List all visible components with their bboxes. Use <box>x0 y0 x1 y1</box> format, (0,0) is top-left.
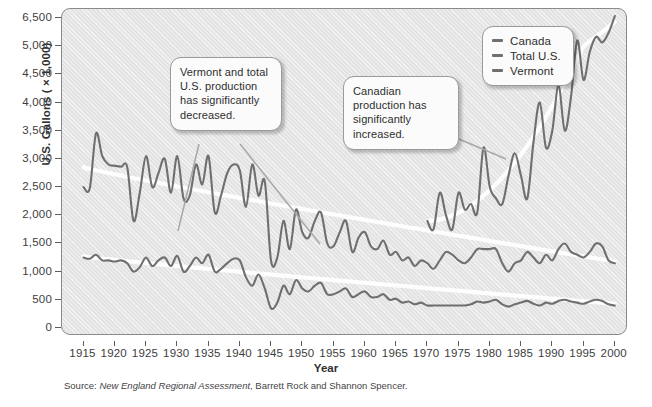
chart-legend[interactable]: Canada Total U.S. Vermont <box>482 26 574 86</box>
y-tick-label: 0 <box>45 321 52 333</box>
x-tick-mark <box>614 341 615 346</box>
x-tick-mark <box>208 341 209 346</box>
y-tick-label: 1,500 <box>22 236 52 248</box>
x-tick-label: 2000 <box>601 347 627 359</box>
x-tick-label: 1915 <box>69 347 95 359</box>
x-tick-mark <box>583 341 584 346</box>
source-caption: Source: New England Regional Assessment,… <box>64 380 407 391</box>
callout-decrease: Vermont and total U.S. production has si… <box>170 57 282 131</box>
x-tick-label: 1980 <box>476 347 502 359</box>
x-tick-label: 1955 <box>319 347 345 359</box>
y-tick-label: 1,000 <box>22 265 52 277</box>
y-tick-label: 2,500 <box>22 180 52 192</box>
x-tick-mark <box>333 341 334 346</box>
callout-increase: Canadian production has significantly in… <box>343 76 459 150</box>
legend-label-total-us: Total U.S. <box>510 50 561 62</box>
y-tick-label: 3,500 <box>22 124 52 136</box>
x-tick-label: 1960 <box>351 347 377 359</box>
x-tick-mark <box>364 341 365 346</box>
trend-line-total-u-s <box>84 167 615 261</box>
y-tick-label: 6,500 <box>22 11 52 23</box>
x-tick-label: 1945 <box>257 347 283 359</box>
source-prefix: Source: <box>64 380 99 391</box>
x-tick-mark <box>551 341 552 346</box>
x-tick-label: 1995 <box>569 347 595 359</box>
x-tick-label: 1940 <box>226 347 252 359</box>
trend-line-vermont <box>84 256 615 303</box>
source-title: New England Regional Assessment <box>99 380 250 391</box>
x-tick-mark <box>270 341 271 346</box>
x-tick-mark <box>176 341 177 346</box>
legend-marker-vermont <box>492 69 503 72</box>
x-tick-mark <box>301 341 302 346</box>
x-tick-label: 1965 <box>382 347 408 359</box>
x-tick-label: 1950 <box>288 347 314 359</box>
y-tick-label: 3,000 <box>22 152 52 164</box>
x-tick-label: 1975 <box>444 347 470 359</box>
x-tick-mark <box>458 341 459 346</box>
legend-marker-canada <box>492 39 503 42</box>
y-tick-label: 500 <box>32 293 52 305</box>
x-tick-mark <box>520 341 521 346</box>
x-tick-mark <box>426 341 427 346</box>
x-tick-label: 1970 <box>413 347 439 359</box>
x-axis-title: Year <box>0 362 652 374</box>
x-tick-label: 1990 <box>538 347 564 359</box>
legend-label-canada: Canada <box>510 35 551 47</box>
x-tick-mark <box>239 341 240 346</box>
y-tick-label: 4,000 <box>22 96 52 108</box>
x-tick-mark <box>83 341 84 346</box>
x-tick-label: 1925 <box>132 347 158 359</box>
y-axis-labels: 6,5005,0004,5004,0003,5003,0002,5002,000… <box>0 0 52 340</box>
source-suffix: , Barrett Rock and Shannon Spencer. <box>250 380 407 391</box>
x-tick-mark <box>489 341 490 346</box>
y-tick-label: 2,000 <box>22 208 52 220</box>
x-tick-label: 1935 <box>194 347 220 359</box>
y-tick-label: 4,500 <box>22 67 52 79</box>
legend-item-total-us[interactable]: Total U.S. <box>492 48 561 63</box>
legend-label-vermont: Vermont <box>510 65 554 77</box>
x-tick-mark <box>114 341 115 346</box>
x-tick-label: 1985 <box>507 347 533 359</box>
series-line-total-u-s <box>84 133 615 272</box>
chart-figure: U.S. Gallons ( × 1,000) 6,5005,0004,5004… <box>0 0 652 407</box>
x-tick-label: 1920 <box>101 347 127 359</box>
y-tick-label: 5,000 <box>22 39 52 51</box>
legend-item-vermont[interactable]: Vermont <box>492 63 561 78</box>
x-tick-mark <box>145 341 146 346</box>
x-tick-mark <box>395 341 396 346</box>
x-tick-label: 1930 <box>163 347 189 359</box>
legend-item-canada[interactable]: Canada <box>492 33 561 48</box>
legend-marker-total-us <box>492 54 503 57</box>
